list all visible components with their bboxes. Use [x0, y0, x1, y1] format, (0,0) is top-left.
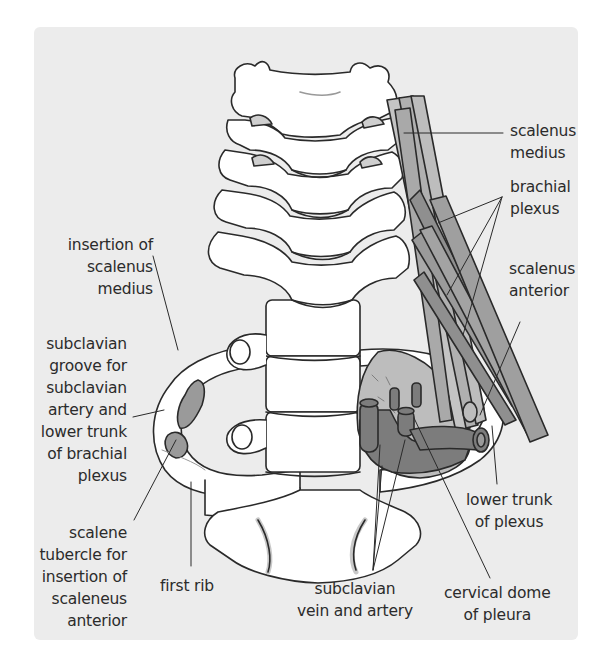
label-brachial-plexus: brachial plexus [510, 176, 571, 220]
label-scalene-tubercle: scalene tubercle for insertion of scalen… [39, 522, 127, 632]
label-lower-trunk: lower trunk of plexus [466, 489, 552, 533]
label-subclavian-vessels: subclavian vein and artery [297, 578, 413, 622]
label-first-rib: first rib [160, 575, 214, 597]
label-cervical-dome: cervical dome of pleura [444, 582, 551, 626]
label-scalenus-anterior: scalenus anterior [509, 258, 575, 302]
vertebral-body [266, 300, 360, 356]
label-scalenus-medius: scalenus medius [510, 120, 576, 164]
vertebral-body [266, 412, 360, 472]
label-insertion-scalenus-medius: insertion of scalenus medius [68, 234, 153, 300]
vertebral-body [266, 356, 360, 412]
label-subclavian-groove: subclavian groove for subclavian artery … [41, 333, 127, 487]
